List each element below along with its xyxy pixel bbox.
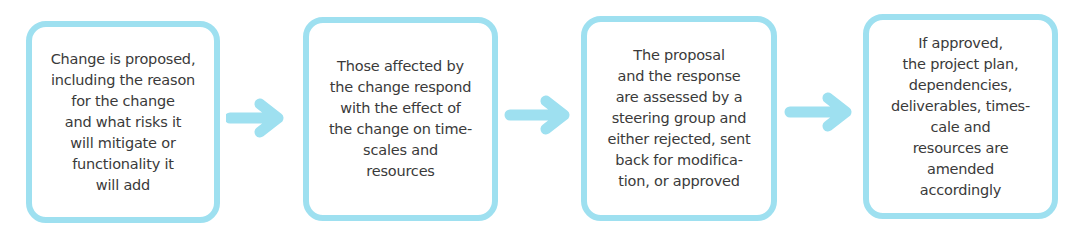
step-3-text: The proposal and the response are assess… bbox=[608, 45, 751, 192]
step-4-line: cale and bbox=[891, 117, 1030, 138]
step-3-line: are assessed by a bbox=[608, 87, 751, 108]
step-3-line: and the response bbox=[608, 66, 751, 87]
step-2-line: Those affected by bbox=[329, 56, 472, 77]
step-1-line: will add bbox=[51, 175, 196, 196]
step-4-line: deliverables, times- bbox=[891, 96, 1030, 117]
step-4-line: If approved, bbox=[891, 33, 1030, 54]
step-1-box: Change is proposed, including the reason… bbox=[26, 21, 220, 223]
step-3-box: The proposal and the response are assess… bbox=[581, 16, 777, 221]
step-1-line: and what risks it bbox=[51, 112, 196, 133]
step-1-line: will mitigate or bbox=[51, 133, 196, 154]
step-2-line: resources bbox=[329, 161, 472, 182]
step-3-line: either rejected, sent bbox=[608, 129, 751, 150]
step-4-text: If approved, the project plan, dependenc… bbox=[891, 33, 1030, 201]
step-1-line: Change is proposed, bbox=[51, 49, 196, 70]
step-2-line: the change respond bbox=[329, 77, 472, 98]
step-3-line: steering group and bbox=[608, 108, 751, 129]
step-3-line: tion, or approved bbox=[608, 171, 751, 192]
arrow-right-icon bbox=[504, 95, 574, 135]
step-4-line: dependencies, bbox=[891, 75, 1030, 96]
step-3-line: The proposal bbox=[608, 45, 751, 66]
step-1-line: for the change bbox=[51, 91, 196, 112]
step-2-line: scales and bbox=[329, 140, 472, 161]
step-3-line: back for modifica- bbox=[608, 150, 751, 171]
step-4-box: If approved, the project plan, dependenc… bbox=[863, 14, 1058, 219]
step-2-line: with the effect of bbox=[329, 98, 472, 119]
step-2-line: the change on time- bbox=[329, 119, 472, 140]
step-4-line: the project plan, bbox=[891, 54, 1030, 75]
step-2-text: Those affected by the change respond wit… bbox=[329, 56, 472, 182]
step-1-line: including the reason bbox=[51, 70, 196, 91]
step-2-box: Those affected by the change respond wit… bbox=[303, 17, 498, 221]
arrow-right-icon bbox=[784, 92, 856, 132]
step-4-line: amended bbox=[891, 159, 1030, 180]
arrow-right-icon bbox=[226, 98, 288, 138]
step-4-line: resources are bbox=[891, 138, 1030, 159]
step-1-line: functionality it bbox=[51, 154, 196, 175]
step-1-text: Change is proposed, including the reason… bbox=[51, 49, 196, 196]
step-4-line: accordingly bbox=[891, 180, 1030, 201]
